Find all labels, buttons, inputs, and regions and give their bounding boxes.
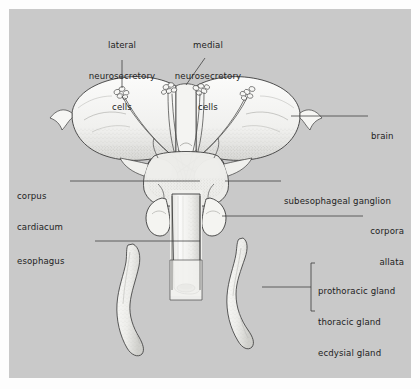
label-line: ecdysial gland (318, 348, 395, 358)
label-line: corpora (286, 226, 404, 236)
esophagus (170, 190, 202, 300)
label-line: brain (371, 131, 394, 141)
label-line: esophagus (17, 256, 64, 266)
label-gland-synonyms: prothoracic gland thoracic gland ecdysia… (318, 266, 395, 378)
label-line: cells (148, 102, 268, 112)
label-brain: brain (371, 111, 394, 162)
label-line: neurosecretory (148, 71, 268, 81)
label-line: medial (148, 40, 268, 50)
label-line: corpus (17, 191, 63, 201)
label-line: cardiacum (17, 222, 63, 232)
figure-root: lateral neurosecretory cells medial neur… (0, 0, 420, 389)
label-line: prothoracic gland (318, 286, 395, 296)
label-esophagus: esophagus (17, 236, 64, 287)
label-medial-neurosecretory-cells: medial neurosecretory cells (148, 20, 268, 132)
label-line: thoracic gland (318, 317, 395, 327)
